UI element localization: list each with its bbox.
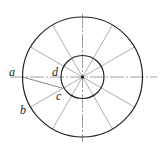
label-a: a: [9, 65, 15, 79]
radial-line: [83, 77, 113, 129]
radial-line: [83, 47, 135, 77]
radial-line: [83, 77, 135, 107]
label-b: b: [20, 103, 26, 117]
label-d: d: [52, 65, 59, 79]
center-point: [81, 75, 84, 78]
diagram: a b c d: [0, 0, 167, 151]
radial-line: [83, 25, 113, 77]
label-c: c: [56, 89, 62, 103]
